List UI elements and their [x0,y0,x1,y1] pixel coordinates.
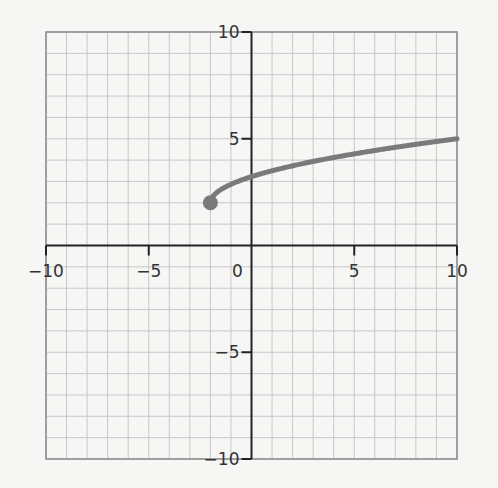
closed-dot-marker [203,195,218,210]
x-tick-label: 10 [446,261,468,281]
x-tick-label: 5 [349,261,360,281]
coordinate-plane: −10−50510−10−5510 [0,0,498,488]
y-tick-label: −5 [214,342,239,362]
x-tick-label: −10 [28,261,64,281]
function-curve [203,139,457,211]
x-tick-label: −5 [136,261,161,281]
y-tick-label: 5 [229,129,240,149]
x-tick-label: 0 [232,261,243,281]
y-tick-label: 10 [218,22,240,42]
y-tick-label: −10 [204,449,240,469]
